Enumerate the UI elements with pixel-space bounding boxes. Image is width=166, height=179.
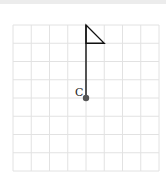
flag-triangle: [86, 25, 104, 43]
point-c-dot: [83, 95, 89, 101]
point-label: C: [75, 86, 83, 99]
flag-figure: [83, 25, 104, 101]
